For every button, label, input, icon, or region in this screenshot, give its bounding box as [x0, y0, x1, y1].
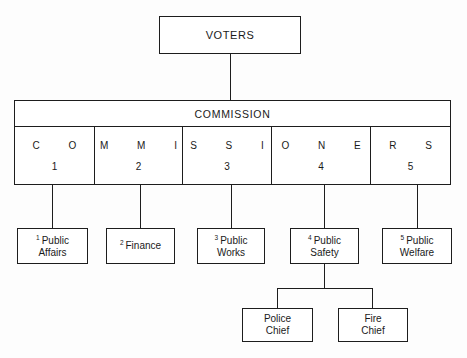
node-fire-chief[interactable]: Fire Chief	[338, 308, 408, 342]
commissioner-cell-4[interactable]: O N E 4	[272, 127, 371, 184]
dept-superscript-1: 1	[36, 234, 40, 241]
connector-cell1-to-dept1	[52, 185, 53, 228]
commissioner-cell-2[interactable]: M M I 2	[95, 127, 183, 184]
dept-line2-1: Affairs	[38, 247, 66, 258]
commissioner-letters-4: O N E	[268, 140, 373, 151]
voters-label: VOTERS	[206, 29, 255, 42]
node-public-welfare[interactable]: 5Public Welfare	[382, 228, 452, 264]
dept-superscript-3: 3	[215, 234, 219, 241]
dept-label-2: 2Finance	[120, 239, 161, 252]
commissioner-letters-1: C O	[20, 140, 90, 151]
commissioner-number-2: 2	[136, 161, 142, 172]
connector-cell5-to-dept5	[417, 185, 418, 228]
node-finance[interactable]: 2Finance	[106, 228, 175, 264]
connector-safety-stem	[324, 264, 325, 289]
dept-line2-4: Safety	[310, 247, 338, 258]
dept-superscript-2: 2	[120, 239, 124, 246]
commissioner-letters-5: R S	[376, 140, 445, 151]
fire-chief-line1: Fire	[364, 313, 381, 324]
dept-line1-1: Public	[42, 235, 69, 246]
dept-line1-2: Finance	[126, 241, 162, 252]
node-voters[interactable]: VOTERS	[159, 16, 301, 54]
dept-line1-5: Public	[406, 235, 433, 246]
connector-bus-to-police	[277, 288, 278, 308]
dept-label-1: 1Public Affairs	[36, 234, 69, 259]
dept-line1-3: Public	[220, 235, 247, 246]
commissioner-number-4: 4	[318, 161, 324, 172]
dept-superscript-4: 4	[308, 234, 312, 241]
dept-superscript-5: 5	[401, 234, 405, 241]
connector-chiefs-bus	[277, 288, 373, 289]
node-public-affairs[interactable]: 1Public Affairs	[17, 228, 88, 264]
commissioner-cell-5[interactable]: R S 5	[371, 127, 450, 184]
node-public-safety[interactable]: 4Public Safety	[290, 228, 359, 264]
connector-voters-to-commission	[230, 54, 231, 100]
node-commission[interactable]: COMMISSION C O 1 M M I 2 S S I 3 O N E 4…	[14, 100, 451, 185]
connector-cell2-to-dept2	[140, 185, 141, 228]
dept-label-4: 4Public Safety	[308, 234, 341, 259]
police-chief-line2: Chief	[266, 325, 289, 336]
fire-chief-label: Fire Chief	[361, 313, 384, 337]
commissioner-number-1: 1	[52, 161, 58, 172]
connector-cell3-to-dept3	[231, 185, 232, 228]
commissioner-number-5: 5	[408, 161, 414, 172]
figure-caption	[14, 350, 444, 358]
dept-line2-5: Welfare	[400, 247, 434, 258]
fire-chief-line2: Chief	[361, 325, 384, 336]
org-chart-canvas: VOTERS COMMISSION C O 1 M M I 2 S S I 3 …	[0, 0, 467, 358]
commissioner-number-3: 3	[224, 161, 230, 172]
commissioner-cell-1[interactable]: C O 1	[15, 127, 95, 184]
dept-label-5: 5Public Welfare	[400, 234, 434, 259]
commission-title: COMMISSION	[15, 101, 450, 127]
police-chief-line1: Police	[264, 313, 291, 324]
commissioner-letters-2: M M I	[87, 140, 190, 151]
commissioner-letters-3: S S I	[177, 140, 277, 151]
dept-line1-4: Public	[314, 235, 341, 246]
connector-bus-to-fire	[372, 288, 373, 308]
dept-label-3: 3Public Works	[215, 234, 248, 259]
node-public-works[interactable]: 3Public Works	[197, 228, 265, 264]
node-police-chief[interactable]: Police Chief	[242, 308, 313, 342]
dept-line2-3: Works	[217, 247, 245, 258]
commissioner-cell-3[interactable]: S S I 3	[183, 127, 272, 184]
police-chief-label: Police Chief	[264, 313, 291, 337]
connector-cell4-to-dept4	[324, 185, 325, 228]
commissioner-cell-row: C O 1 M M I 2 S S I 3 O N E 4 R S 5	[15, 127, 450, 184]
